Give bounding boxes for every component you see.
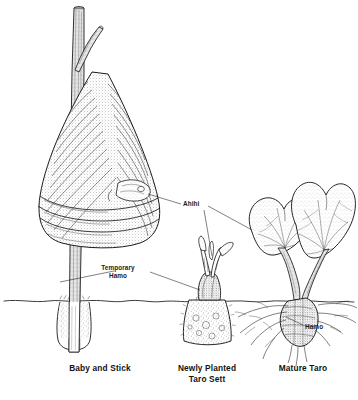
callout-temporary-hamo-line1: Temporary: [101, 264, 134, 272]
specimen-mature-taro: [235, 182, 357, 366]
taro-sett-shoots: [199, 236, 233, 277]
temporary-hamo-hole: [57, 302, 91, 352]
caption-newly-planted-taro-sett-line1: Newly Planted: [178, 363, 236, 374]
sett-soil-mound: [179, 300, 235, 345]
callout-ahihi: Ahihi: [183, 200, 199, 208]
callout-hamo: Hamo: [305, 323, 323, 331]
taro-sett-base: [198, 272, 220, 300]
callout-hamo-text: Hamo: [305, 323, 323, 330]
callout-temporary-hamo-line2: Hamo: [101, 272, 134, 280]
taro-propagation-figure: Ahihi Temporary Hamo Hamo Baby and Stick…: [0, 0, 358, 400]
caption-newly-planted-taro-sett: Newly Planted Taro Sett: [178, 363, 236, 384]
leader-ahihi-to-mature: [208, 206, 252, 230]
taro-corm-hamo: [280, 298, 318, 366]
taro-leaf-right: [292, 182, 356, 258]
caption-mature-taro: Mature Taro: [279, 363, 328, 374]
taro-petioles: [278, 248, 329, 300]
caption-mature-taro-line1: Mature Taro: [279, 363, 328, 374]
leader-hamo-to-sett: [150, 272, 200, 290]
caption-baby-and-stick-line1: Baby and Stick: [69, 363, 131, 374]
specimen-newly-planted-taro-sett: [179, 236, 235, 345]
caption-baby-and-stick: Baby and Stick: [69, 363, 131, 374]
callout-ahihi-text: Ahihi: [183, 200, 199, 207]
taro-baby-bundle: [38, 72, 160, 248]
caption-newly-planted-taro-sett-line2: Taro Sett: [178, 374, 236, 385]
illustration-canvas: [0, 0, 358, 400]
callout-temporary-hamo: Temporary Hamo: [101, 264, 134, 280]
